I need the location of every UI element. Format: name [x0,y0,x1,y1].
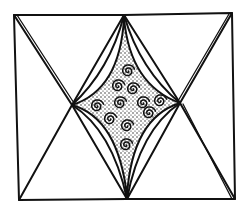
right-x-lines [178,13,235,199]
stippled-diamond [72,18,180,196]
left-x-lines [14,15,74,200]
drawing-canvas [0,0,249,209]
